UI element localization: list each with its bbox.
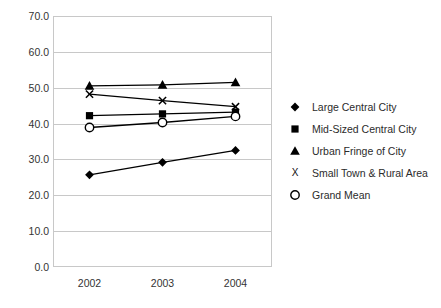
data-point-filled-diamond bbox=[231, 146, 240, 155]
data-point-filled-diamond bbox=[158, 158, 167, 167]
legend-marker-filled-triangle-icon bbox=[283, 144, 307, 158]
data-point-filled-square bbox=[86, 112, 93, 119]
x-axis-tick-label: 2004 bbox=[224, 277, 247, 289]
data-point-filled-triangle bbox=[290, 146, 300, 155]
legend-item-label: Grand Mean bbox=[307, 189, 370, 201]
data-point-open-circle bbox=[231, 112, 239, 120]
y-axis-tick-label: 30.0 bbox=[3, 153, 49, 165]
data-point-filled-square bbox=[159, 110, 166, 117]
y-axis-tick-label: 20.0 bbox=[3, 189, 49, 201]
chart-legend: Large Central CityMid-Sized Central City… bbox=[283, 96, 441, 206]
y-axis-tick-label: 60.0 bbox=[3, 46, 49, 58]
data-point-filled-diamond bbox=[85, 170, 94, 179]
y-axis-tick-label: 40.0 bbox=[3, 118, 49, 130]
legend-marker-filled-square-icon bbox=[283, 122, 307, 136]
series-layer bbox=[53, 16, 272, 267]
legend-marker-open-circle-icon bbox=[283, 188, 307, 202]
legend-item-label: Small Town & Rural Area bbox=[307, 167, 428, 179]
legend-item[interactable]: Urban Fringe of City bbox=[283, 140, 441, 162]
data-point-open-circle bbox=[158, 118, 166, 126]
legend-item[interactable]: XSmall Town & Rural Area bbox=[283, 162, 441, 184]
data-point-open-circle bbox=[291, 191, 299, 199]
legend-item[interactable]: Large Central City bbox=[283, 96, 441, 118]
legend-marker-x-cross-icon: X bbox=[283, 168, 307, 178]
line-chart: 70.060.050.040.030.020.010.00.0 20022003… bbox=[0, 0, 441, 308]
x-axis-tick-label: 2002 bbox=[78, 277, 101, 289]
legend-item[interactable]: Mid-Sized Central City bbox=[283, 118, 441, 140]
y-axis: 70.060.050.040.030.020.010.00.0 bbox=[0, 0, 49, 308]
data-point-filled-square bbox=[291, 125, 298, 132]
data-point-open-circle bbox=[85, 123, 93, 131]
series bbox=[86, 91, 239, 111]
legend-item-label: Urban Fringe of City bbox=[307, 145, 406, 157]
y-axis-tick-label: 50.0 bbox=[3, 82, 49, 94]
series bbox=[85, 146, 240, 179]
legend-marker-filled-diamond-icon bbox=[283, 100, 307, 114]
series bbox=[85, 78, 241, 90]
legend-item[interactable]: Grand Mean bbox=[283, 184, 441, 206]
y-axis-tick-label: 70.0 bbox=[3, 10, 49, 22]
x-axis-tick-label: 2003 bbox=[151, 277, 174, 289]
y-axis-tick-label: 10.0 bbox=[3, 225, 49, 237]
y-axis-tick-label: 0.0 bbox=[3, 261, 49, 273]
legend-item-label: Large Central City bbox=[307, 101, 397, 113]
data-point-filled-diamond bbox=[291, 103, 300, 112]
legend-item-label: Mid-Sized Central City bbox=[307, 123, 416, 135]
